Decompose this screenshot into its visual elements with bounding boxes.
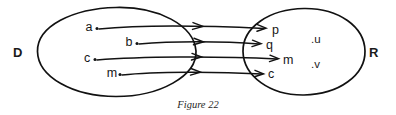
mapping-arrow-m-to-c: [122, 69, 264, 77]
domain-set-label: D: [13, 45, 22, 60]
relation-diagram-figure: D R a b c m: [0, 0, 396, 115]
domain-element-c: c: [84, 51, 90, 65]
figure-caption: Figure 22: [176, 99, 219, 110]
domain-node-dot-c: [94, 58, 97, 61]
range-isolated-element-u: .u: [311, 33, 321, 45]
domain-set-ellipse: [37, 7, 196, 96]
diagram-canvas: D R a b c m: [0, 0, 396, 115]
domain-element-a: a: [86, 20, 93, 34]
range-element-q: q: [266, 38, 273, 52]
range-isolated-element-v: .v: [311, 58, 320, 70]
range-set-ellipse: [243, 8, 365, 95]
range-element-c: c: [268, 67, 274, 81]
domain-element-m: m: [107, 66, 117, 80]
range-element-p: p: [272, 23, 279, 37]
domain-node-dot-a: [96, 27, 99, 30]
range-set-label: R: [369, 45, 379, 60]
domain-element-b: b: [126, 35, 133, 49]
range-element-m: m: [283, 53, 293, 67]
mapping-arrow-c-to-m: [97, 53, 279, 61]
domain-node-dot-m: [119, 73, 122, 76]
domain-node-dot-b: [136, 42, 139, 45]
